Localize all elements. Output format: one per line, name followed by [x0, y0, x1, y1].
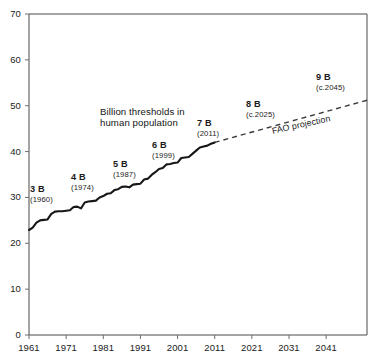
threshold-6b: 6 B(1999): [152, 141, 175, 160]
threshold-4b-value: 4 B: [71, 173, 94, 183]
population-threshold-chart: 010203040506070 196119711981199120012011…: [0, 0, 377, 359]
y-tick-label: 20: [0, 237, 21, 248]
threshold-5b-value: 5 B: [113, 160, 136, 170]
caption-line-2: human population: [100, 117, 198, 128]
chart-caption: Billion thresholds in human population: [100, 106, 198, 128]
chart-canvas: [0, 0, 377, 359]
historical-series-line: [29, 142, 215, 230]
threshold-9b: 9 B(c.2045): [316, 73, 345, 92]
threshold-8b-value: 8 B: [246, 100, 275, 110]
y-tick-label: 70: [0, 8, 21, 19]
y-tick-label: 0: [0, 329, 21, 340]
threshold-5b-year: (1987): [113, 170, 136, 180]
threshold-4b: 4 B(1974): [71, 173, 94, 192]
caption-line-1: Billion thresholds in: [100, 106, 198, 117]
threshold-9b-year: (c.2045): [316, 83, 345, 93]
x-tick-label: 2041: [306, 342, 346, 353]
threshold-3b: 3 B(1960): [30, 185, 53, 204]
threshold-9b-value: 9 B: [316, 73, 345, 83]
x-tick-label: 2031: [269, 342, 309, 353]
x-axis-ticks: [29, 335, 326, 339]
y-tick-label: 50: [0, 100, 21, 111]
y-tick-label: 60: [0, 54, 21, 65]
x-tick-label: 2001: [158, 342, 198, 353]
y-tick-label: 30: [0, 191, 21, 202]
x-tick-label: 1971: [46, 342, 86, 353]
x-tick-label: 1991: [120, 342, 160, 353]
threshold-4b-year: (1974): [71, 183, 94, 193]
threshold-5b: 5 B(1987): [113, 160, 136, 179]
threshold-3b-value: 3 B: [30, 185, 53, 195]
threshold-8b: 8 B(c.2025): [246, 100, 275, 119]
y-tick-label: 40: [0, 146, 21, 157]
threshold-7b: 7 B(2011): [197, 119, 219, 138]
threshold-6b-year: (1999): [152, 151, 175, 161]
threshold-8b-year: (c.2025): [246, 110, 275, 120]
x-tick-label: 2021: [232, 342, 272, 353]
threshold-3b-year: (1960): [30, 195, 53, 205]
x-tick-label: 1961: [9, 342, 49, 353]
threshold-6b-value: 6 B: [152, 141, 175, 151]
x-tick-label: 1981: [83, 342, 123, 353]
threshold-7b-year: (2011): [197, 129, 219, 139]
y-axis-ticks: [25, 14, 29, 335]
x-tick-label: 2011: [195, 342, 235, 353]
threshold-7b-value: 7 B: [197, 119, 219, 129]
y-tick-label: 10: [0, 283, 21, 294]
